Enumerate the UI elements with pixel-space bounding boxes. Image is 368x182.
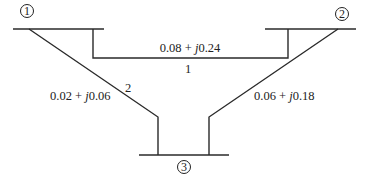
line-2-3-impedance: 0.06 + j0.18 <box>254 89 315 103</box>
bus-3: 3 <box>139 155 229 174</box>
line-2-3: 0.06 + j0.18 <box>209 29 338 155</box>
bus-2: 2 <box>265 7 356 29</box>
line-1-3-number: 2 <box>125 81 131 95</box>
line-1-2-impedance: 0.08 + j0.24 <box>160 41 221 55</box>
bus-3-number: 3 <box>181 160 187 174</box>
bus-2-number: 2 <box>339 7 345 21</box>
three-bus-network-diagram: 1 2 3 0.08 + j0.24 1 0.02 + j0.06 2 0.06… <box>0 0 368 182</box>
line-1-2-number: 1 <box>185 62 191 76</box>
line-1-3-impedance: 0.02 + j0.06 <box>50 89 111 103</box>
bus-1-number: 1 <box>24 4 30 18</box>
bus-1: 1 <box>13 4 104 29</box>
line-1-2: 0.08 + j0.24 1 <box>93 29 288 76</box>
